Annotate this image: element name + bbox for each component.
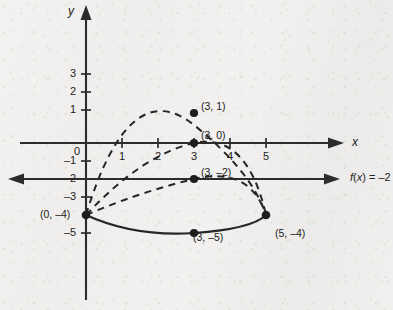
y-tick-label-2: 2 — [70, 86, 76, 97]
point-0-neg4 — [82, 211, 91, 220]
y-axis-arrowhead-icon — [81, 5, 92, 20]
x-tick-label-5: 5 — [263, 151, 269, 162]
y-tick-label-neg5: –5 — [64, 227, 76, 238]
reference-line-right-arrowhead-icon — [324, 174, 340, 185]
y-tick-label-neg2: 2 — [70, 173, 76, 184]
x-tick-label-1: 1 — [119, 151, 125, 162]
x-tick-label-2: 2 — [155, 151, 161, 162]
x-axis-label: x — [352, 136, 358, 148]
y-axis-label: y — [68, 5, 74, 17]
reference-line-left-arrowhead-icon — [8, 174, 24, 185]
parabola-vertex-3-1 — [86, 111, 266, 215]
point-3-neg2 — [190, 175, 198, 183]
point-label-3-neg5: (3, –5) — [193, 232, 223, 243]
point-label-3-0: (3, 0) — [201, 130, 226, 141]
y-axis — [81, 5, 92, 300]
point-label-3-neg2: (3, –2) — [201, 167, 231, 178]
y-tick-label-1: 1 — [70, 104, 76, 115]
point-3-0 — [190, 139, 198, 147]
parabola-vertex-3-neg2 — [86, 176, 266, 215]
point-5-neg4 — [262, 211, 271, 220]
point-3-1 — [190, 109, 198, 117]
point-label-3-1: (3, 1) — [201, 101, 226, 112]
y-tick-label-neg3: –3 — [64, 191, 76, 202]
y-tick-label-3: 3 — [70, 68, 76, 79]
parabola-vertex-3-neg5 — [86, 215, 266, 234]
x-axis-arrowhead-icon — [328, 138, 344, 149]
reference-line-label: f(x) = –2 — [350, 172, 391, 183]
reference-line-f-eq-neg2 — [8, 174, 340, 185]
point-label-0-neg4: (0, –4) — [40, 209, 70, 220]
point-label-5-neg4: (5, –4) — [275, 228, 305, 239]
x-tick-label-3: 3 — [191, 151, 197, 162]
y-tick-label-neg1: –1 — [64, 155, 76, 166]
x-tick-label-4: 4 — [227, 151, 233, 162]
graph-figure: y x 0 3 2 1 –1 2 –3 –5 1 2 3 4 5 (3, 1) … — [0, 0, 393, 310]
